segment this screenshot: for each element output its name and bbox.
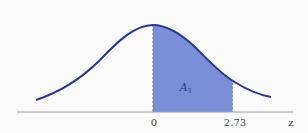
axis-label-z: z: [288, 117, 293, 128]
tick-label-2-73: 2.73: [224, 117, 246, 128]
tick-label-zero: 0: [151, 117, 157, 128]
diagram-canvas: 0 2.73 z A1: [0, 0, 308, 133]
shaded-area-a1: [153, 25, 233, 112]
area-label-subscript: 1: [188, 87, 192, 95]
area-label-main: A: [179, 81, 188, 94]
normal-curve-diagram: 0 2.73 z A1: [0, 0, 308, 133]
